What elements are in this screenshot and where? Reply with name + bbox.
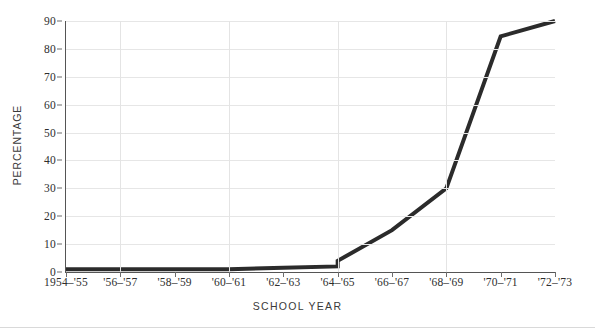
x-tick-label: '58–'59 <box>158 276 192 288</box>
horizontal-gridline <box>66 133 555 134</box>
y-axis-tick-labels: 0102030405060708090 <box>28 0 62 290</box>
y-tick-mark <box>57 160 62 161</box>
data-series-line <box>66 21 555 272</box>
vertical-gridline <box>446 21 447 272</box>
horizontal-gridline <box>66 105 555 106</box>
horizontal-gridline <box>66 188 555 189</box>
x-tick-label: '56–'57 <box>103 276 137 288</box>
y-axis-title: PERCENTAGE <box>11 105 23 186</box>
x-tick-label: '66–'67 <box>375 276 409 288</box>
series-polyline <box>66 21 555 269</box>
y-tick-label: 60 <box>44 99 56 111</box>
y-tick-label: 10 <box>44 238 56 250</box>
y-axis-title-wrapper: PERCENTAGE <box>4 0 30 290</box>
horizontal-gridline <box>66 160 555 161</box>
x-tick-label: '72–'73 <box>538 276 572 288</box>
horizontal-gridline <box>66 216 555 217</box>
y-tick-mark <box>57 104 62 105</box>
x-tick-label: '70–'71 <box>484 276 518 288</box>
x-tick-label: '60–'61 <box>212 276 246 288</box>
x-tick-label: '62–'63 <box>266 276 300 288</box>
line-chart: PERCENTAGE 0102030405060708090 1954–'55'… <box>0 0 595 335</box>
y-tick-label: 70 <box>44 71 56 83</box>
y-tick-label: 20 <box>44 210 56 222</box>
horizontal-gridline <box>66 77 555 78</box>
y-tick-label: 90 <box>44 15 56 27</box>
y-tick-mark <box>57 76 62 77</box>
y-tick-label: 50 <box>44 127 56 139</box>
y-tick-mark <box>57 132 62 133</box>
horizontal-gridline <box>66 244 555 245</box>
y-tick-mark <box>57 244 62 245</box>
vertical-gridline <box>338 21 339 272</box>
bottom-divider <box>0 327 595 328</box>
x-axis-title: SCHOOL YEAR <box>0 300 595 312</box>
plot-area <box>66 21 555 272</box>
x-tick-label: '68–'69 <box>429 276 463 288</box>
y-tick-mark <box>57 216 62 217</box>
horizontal-gridline <box>66 49 555 50</box>
y-tick-mark <box>57 48 62 49</box>
y-tick-mark <box>57 21 62 22</box>
x-tick-label: '64–'65 <box>321 276 355 288</box>
y-tick-mark <box>57 272 62 273</box>
horizontal-gridline <box>66 21 555 22</box>
vertical-gridline <box>120 21 121 272</box>
y-tick-mark <box>57 188 62 189</box>
vertical-gridline <box>229 21 230 272</box>
y-tick-label: 30 <box>44 182 56 194</box>
y-tick-label: 40 <box>44 154 56 166</box>
x-tick-label: 1954–'55 <box>44 276 88 288</box>
y-tick-label: 80 <box>44 43 56 55</box>
x-axis-tick-labels: 1954–'55'56–'57'58–'59'60–'61'62–'63'64–… <box>66 276 555 296</box>
